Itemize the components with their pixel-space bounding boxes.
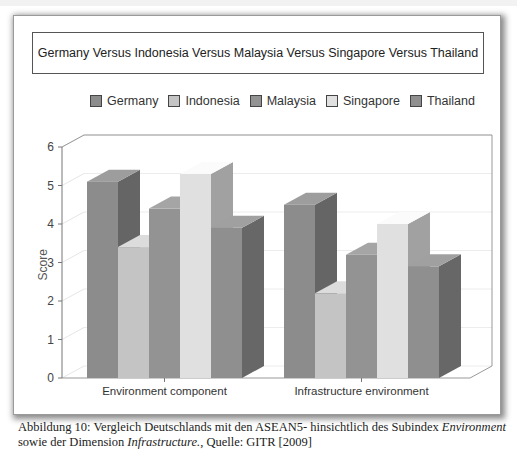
caption-prefix: Abbildung 10: Vergleich Deutschlands mit… xyxy=(18,420,442,434)
caption-italic-infrastructure: Infrastructure. xyxy=(127,435,200,449)
caption-italic-environment: Environment xyxy=(442,420,506,434)
y-tick-label: 6 xyxy=(47,140,54,154)
chart-plot: 0123456ScoreEnvironment componentInfrast… xyxy=(0,0,517,462)
caption-suffix: , Quelle: GITR [2009] xyxy=(200,435,312,449)
y-tick-label: 1 xyxy=(47,333,54,347)
x-category-label: Infrastructure environment xyxy=(294,385,429,397)
y-axis-label: Score xyxy=(36,249,50,281)
y-tick-label: 2 xyxy=(47,294,54,308)
y-tick-label: 5 xyxy=(47,179,54,193)
bar-thailand-1 xyxy=(408,254,461,378)
y-tick-label: 4 xyxy=(47,217,54,231)
bar-thailand-0 xyxy=(211,216,264,378)
figure-caption: Abbildung 10: Vergleich Deutschlands mit… xyxy=(18,420,508,450)
y-tick-label: 0 xyxy=(47,371,54,385)
x-category-label: Environment component xyxy=(102,385,227,397)
caption-middle: sowie der Dimension xyxy=(18,435,127,449)
